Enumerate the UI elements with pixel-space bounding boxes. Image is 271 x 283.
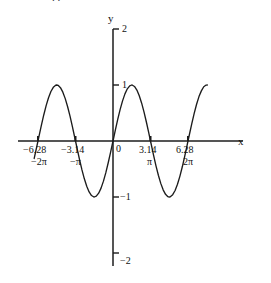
x-tick-label-2pi-value: 6.28 [176,145,194,155]
x-tick-label-pi-value: 3.14 [139,145,157,155]
origin-label: 0 [116,144,121,154]
y-tick-label-2: 2 [122,24,127,34]
x-tick-label-pi-sub: π [147,157,152,167]
y-tick-label-neg-1: −1 [120,192,131,202]
plot-canvas [0,0,271,283]
x-tick-label-neg-pi-value: −3.14 [61,145,84,155]
x-tick-label-neg-2pi-value: −6.28 [23,145,46,155]
sine-graph-figure: . . x y 0 −6.28 −2π −3.14 −π 3.14 π 6.28… [0,0,271,283]
x-tick-label-neg-pi-sub: −π [70,157,81,167]
x-tick-label-2pi-sub: 2π [183,157,193,167]
axes-group [18,29,243,266]
x-axis-label: x [238,136,244,147]
y-tick-label-neg-2: −2 [120,256,131,266]
y-tick-label-1: 1 [122,80,127,90]
y-axis-label: y [108,13,114,24]
x-tick-label-neg-2pi-sub: −2π [31,157,47,167]
